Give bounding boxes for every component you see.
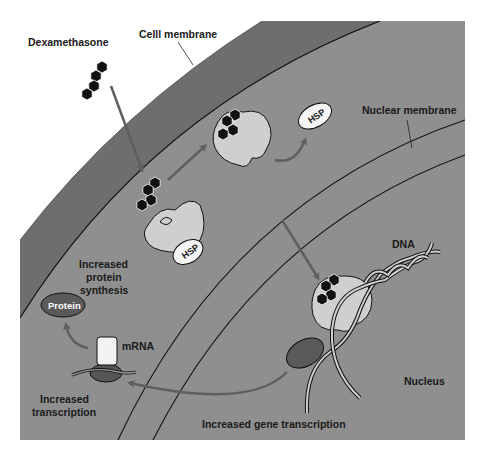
label-increased-protein-synthesis-3: synthesis xyxy=(80,284,129,296)
label-increased-protein-synthesis-1: Increased xyxy=(79,258,128,270)
dexamethasone-mechanism-diagram: Dexamethasone Celll membrane Nuclear mem… xyxy=(0,0,479,456)
label-cell-membrane: Celll membrane xyxy=(139,28,217,40)
mrna-box xyxy=(97,337,117,365)
label-mrna: mRNA xyxy=(122,340,155,352)
label-dna: DNA xyxy=(392,238,415,250)
cell-panel xyxy=(20,21,465,440)
label-increased-transcription-1: Increased xyxy=(40,393,89,405)
label-increased-gene-transcription: Increased gene transcription xyxy=(202,418,346,430)
protein-label: Protein xyxy=(48,300,81,311)
label-nucleus: Nucleus xyxy=(404,375,445,387)
label-increased-transcription-2: transcription xyxy=(32,406,96,418)
label-nuclear-membrane: Nuclear membrane xyxy=(362,104,457,116)
protein-oval: Protein xyxy=(41,293,85,317)
label-dexamethasone: Dexamethasone xyxy=(28,36,109,48)
label-increased-protein-synthesis-2: protein xyxy=(86,271,122,283)
